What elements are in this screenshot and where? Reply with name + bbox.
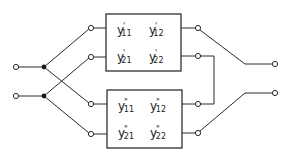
junction-dot-2 [42, 94, 47, 99]
top-in-terminal-2 [88, 54, 93, 59]
output-terminal-2 [272, 90, 277, 95]
output-bridge-wire [201, 56, 214, 104]
top-out-terminal-1 [195, 25, 200, 30]
param-top-y22: y'22 [149, 51, 164, 63]
param-index: 12 [153, 29, 163, 38]
input-terminal-2 [13, 93, 18, 98]
param-bottom-y22: y"22 [150, 127, 166, 139]
param-index: 12 [156, 105, 166, 114]
param-index: 22 [153, 56, 163, 65]
branch-j1-top [44, 29, 89, 67]
branch-j1-bottom [44, 67, 89, 103]
branch-j2-bottom [44, 96, 89, 133]
bottom-out-terminal-2 [195, 130, 200, 135]
top-out-terminal-2 [195, 53, 200, 58]
param-top-y21: y'21 [117, 51, 132, 63]
param-index: 11 [124, 105, 134, 114]
param-top-y11: y'11 [117, 24, 132, 36]
top-in-terminal-1 [88, 25, 93, 30]
param-index: 11 [121, 29, 131, 38]
junction-dot-1 [42, 65, 47, 70]
input-terminal-1 [13, 64, 18, 69]
bottom-out-terminal-1 [195, 101, 200, 106]
param-bottom-y12: y"12 [150, 100, 166, 112]
param-index: 21 [124, 132, 134, 141]
branch-j2-top [44, 58, 89, 96]
bottom-in-terminal-2 [88, 131, 93, 136]
param-top-y12: y'12 [149, 24, 164, 36]
param-bottom-y11: y"11 [118, 100, 134, 112]
param-index: 22 [156, 132, 166, 141]
output-wire-1 [200, 30, 272, 64]
param-index: 21 [121, 56, 131, 65]
output-wire-2 [200, 93, 272, 131]
param-bottom-y21: y"21 [118, 127, 134, 139]
bottom-in-terminal-1 [88, 101, 93, 106]
two-port-diagram [0, 0, 291, 155]
output-terminal-1 [272, 61, 277, 66]
